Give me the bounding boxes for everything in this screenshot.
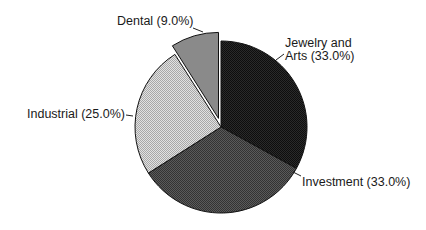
- label-jewelry-line2: Arts (33.0%): [285, 49, 354, 63]
- leader-line-industrial: [126, 115, 133, 116]
- label-industrial: Industrial (25.0%): [27, 107, 125, 121]
- label-investment: Investment (33.0%): [302, 175, 410, 189]
- label-dental: Dental (9.0%): [117, 14, 193, 28]
- leader-line-dental: [193, 28, 203, 32]
- leader-line-jewelry: [276, 54, 284, 60]
- label-jewelry-line1: Jewelry and: [285, 36, 352, 50]
- pie-chart: Dental (9.0%) Jewelry and Arts (33.0%) I…: [0, 0, 426, 230]
- leader-line-investment: [293, 172, 301, 176]
